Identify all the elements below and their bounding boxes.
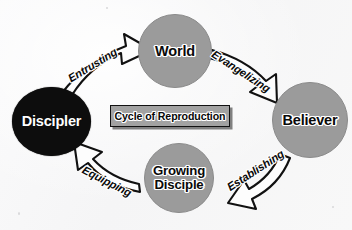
node-world[interactable]: World: [138, 14, 212, 88]
cycle-of-reproduction-diagram: Discipler World Believer Growing Discipl…: [0, 0, 352, 230]
node-growing-disciple-label: Growing Disciple: [153, 164, 205, 193]
center-caption-plaque: Cycle of Reproduction: [110, 105, 230, 127]
node-believer[interactable]: Believer: [272, 82, 348, 158]
node-discipler[interactable]: Discipler: [12, 87, 91, 156]
node-believer-label: Believer: [283, 113, 338, 128]
node-growing-disciple[interactable]: Growing Disciple: [144, 143, 214, 213]
node-discipler-label: Discipler: [22, 114, 81, 129]
center-caption-label: Cycle of Reproduction: [115, 110, 226, 122]
node-world-label: World: [155, 44, 195, 59]
